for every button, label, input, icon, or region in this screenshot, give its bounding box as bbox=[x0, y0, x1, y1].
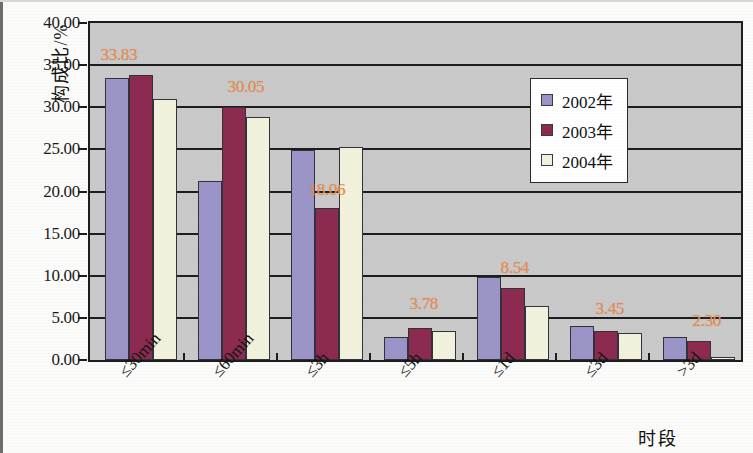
x-tick-mark bbox=[183, 353, 185, 360]
y-tick-mark bbox=[78, 148, 87, 150]
gridline bbox=[90, 191, 741, 193]
y-axis: 0.005.0010.0015.0020.0025.0030.0035.0040… bbox=[0, 0, 88, 383]
bar-≤60min-2003年[interactable] bbox=[222, 107, 246, 360]
x-tick-mark bbox=[369, 353, 371, 360]
y-tick-label: 20.00 bbox=[43, 182, 80, 202]
legend-item-2002[interactable]: 2002年 bbox=[541, 85, 613, 115]
legend-swatch-2004 bbox=[541, 154, 553, 166]
y-tick-mark bbox=[78, 106, 87, 108]
page-edge-top bbox=[0, 0, 753, 2]
y-tick-mark bbox=[78, 275, 87, 277]
bar-≤30min-2002年[interactable] bbox=[105, 78, 129, 360]
bar-≤3h-2003年[interactable] bbox=[315, 208, 339, 360]
x-tick-mark bbox=[276, 353, 278, 360]
legend-item-2003[interactable]: 2003年 bbox=[541, 115, 613, 145]
gridline bbox=[90, 64, 741, 66]
bar-≤5h-2004年[interactable] bbox=[432, 331, 456, 360]
legend-swatch-2003 bbox=[541, 124, 553, 136]
data-label-≤60min: 30.05 bbox=[228, 77, 265, 97]
y-tick-mark bbox=[78, 359, 87, 361]
bar-≤1d-2002年[interactable] bbox=[477, 277, 501, 360]
y-tick-label: 10.00 bbox=[43, 266, 80, 286]
x-tick-mark bbox=[555, 353, 557, 360]
data-label-≤1d: 8.54 bbox=[501, 258, 530, 278]
y-axis-title: 构成比/% bbox=[46, 0, 72, 128]
gridline bbox=[90, 317, 741, 319]
y-tick-mark bbox=[78, 233, 87, 235]
x-tick-mark bbox=[648, 353, 650, 360]
data-label-≤3d: 3.45 bbox=[596, 299, 625, 319]
legend-label-2003: 2003年 bbox=[562, 118, 613, 143]
y-tick-mark bbox=[78, 22, 87, 24]
bar-≤3h-2004年[interactable] bbox=[339, 147, 363, 360]
y-tick-mark bbox=[78, 64, 87, 66]
y-tick-label: 25.00 bbox=[43, 139, 80, 159]
bar->3d-2004年[interactable] bbox=[711, 357, 735, 360]
chart-figure: 0.005.0010.0015.0020.0025.0030.0035.0040… bbox=[0, 0, 753, 453]
data-label-≤30min: 33.83 bbox=[101, 45, 138, 65]
legend-label-2004: 2004年 bbox=[562, 148, 613, 173]
gridline bbox=[90, 233, 741, 235]
data-label-≤3h: 18.06 bbox=[309, 180, 346, 200]
data-label-≤5h: 3.78 bbox=[410, 294, 439, 314]
gridline bbox=[90, 148, 741, 150]
bar-≤1d-2004年[interactable] bbox=[525, 306, 549, 360]
gridline bbox=[90, 275, 741, 277]
legend-label-2002: 2002年 bbox=[562, 88, 613, 113]
y-tick-label: 15.00 bbox=[43, 224, 80, 244]
legend-swatch-2002 bbox=[541, 94, 553, 106]
x-axis-title: 时段 bbox=[638, 424, 678, 450]
x-tick-mark bbox=[462, 353, 464, 360]
y-tick-mark bbox=[78, 317, 87, 319]
gridline bbox=[90, 106, 741, 108]
bar-≤3d-2004年[interactable] bbox=[618, 333, 642, 360]
y-tick-label: 5.00 bbox=[51, 308, 80, 328]
legend-item-2004[interactable]: 2004年 bbox=[541, 145, 613, 175]
bar-≤60min-2004年[interactable] bbox=[246, 117, 270, 360]
y-tick-label: 0.00 bbox=[51, 350, 80, 370]
bar-≤60min-2002年[interactable] bbox=[198, 181, 222, 360]
bar-≤30min-2003年[interactable] bbox=[129, 75, 153, 360]
bar-≤30min-2004年[interactable] bbox=[153, 99, 177, 360]
data-label->3d: 2.30 bbox=[693, 311, 722, 331]
y-tick-mark bbox=[78, 191, 87, 193]
legend: 2002年 2003年 2004年 bbox=[530, 78, 628, 183]
